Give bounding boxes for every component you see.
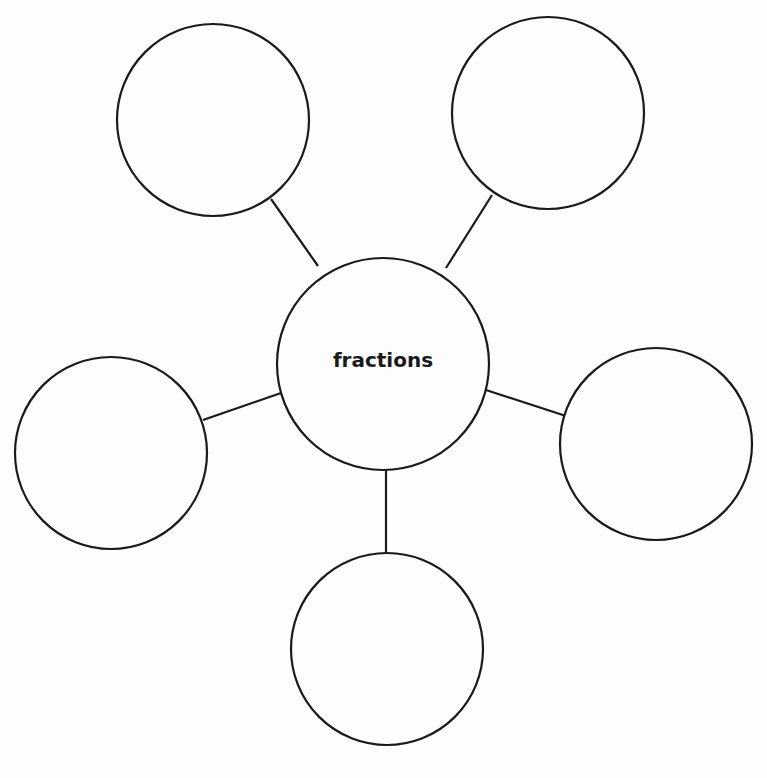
node-circle-bottom[interactable]: [291, 553, 483, 745]
node-top-left[interactable]: [117, 24, 309, 216]
concept-web-diagram: fractions: [0, 0, 767, 778]
connector-top-left: [271, 199, 318, 266]
node-circle-right[interactable]: [560, 348, 752, 540]
node-bottom[interactable]: [291, 553, 483, 745]
node-right[interactable]: [560, 348, 752, 540]
center-label: fractions: [333, 348, 433, 372]
connector-top-right: [446, 195, 492, 268]
node-top-right[interactable]: [452, 17, 644, 209]
node-circle-left[interactable]: [15, 357, 207, 549]
center-node: fractions: [277, 258, 489, 470]
connector-right: [486, 390, 566, 416]
node-circle-top-left[interactable]: [117, 24, 309, 216]
connector-left: [203, 393, 281, 420]
node-circle-top-right[interactable]: [452, 17, 644, 209]
node-left[interactable]: [15, 357, 207, 549]
diagram-svg: fractions: [0, 0, 767, 778]
